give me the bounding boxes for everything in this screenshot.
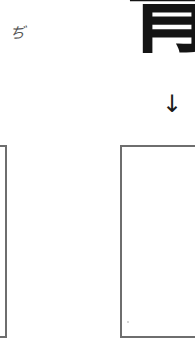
model-character-container: 青 xyxy=(126,0,195,87)
model-character: 青 xyxy=(126,0,195,58)
answer-box-left[interactable] xyxy=(0,145,7,338)
reading-hint: ぢ xyxy=(10,26,25,41)
scan-speck xyxy=(127,321,129,323)
answer-box-right[interactable] xyxy=(120,145,195,338)
arrow-down-icon: ↓ xyxy=(162,92,182,116)
